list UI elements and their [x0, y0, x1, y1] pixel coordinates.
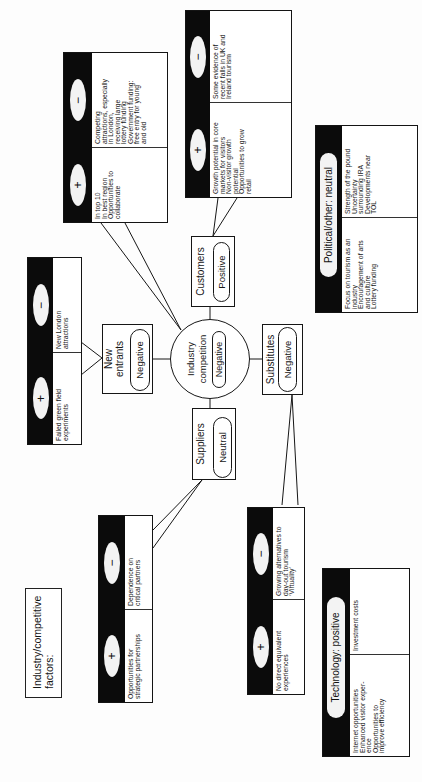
rating-pill: Neutral: [213, 417, 232, 478]
node-label: Industry: [185, 320, 196, 398]
con-item: critical partners: [135, 519, 142, 606]
customers-node: Customers Positive: [191, 236, 235, 307]
node-label: competition: [197, 320, 208, 398]
rating-pill: Negative: [212, 331, 226, 388]
node-label: Suppliers: [195, 409, 206, 479]
plus-icon: +: [70, 164, 86, 206]
positive-item: Lottery funding: [371, 221, 378, 309]
technology-header: Technology: positive: [323, 569, 350, 756]
political-other-box: Political/other: neutral Focus on touris…: [315, 125, 418, 313]
positive-item: improve efficiency: [379, 658, 386, 753]
con-item: ‘Virtuality’: [289, 511, 296, 596]
cons-list: Some evidence of recent falls in UK and …: [210, 11, 291, 103]
minus-icon: −: [190, 36, 206, 78]
minus-icon: −: [104, 542, 120, 584]
negatives-list: Strength of the pound Uncertainty surrou…: [342, 126, 417, 218]
cons-list: Growing alternatives to day-out tourism …: [273, 508, 304, 600]
new-entrants-node: New entrants Negative: [102, 324, 153, 394]
rating-pill: Negative: [130, 329, 150, 391]
con-item: and old: [141, 56, 148, 144]
minus-icon: −: [33, 285, 49, 327]
substitutes-node: Substitutes Negative: [262, 324, 303, 395]
suppliers-pros-cons: + − Opportunities for strategic partners…: [98, 515, 153, 703]
technology-box: Technology: positive Internet opportunit…: [322, 568, 410, 757]
node-label: New: [103, 325, 114, 393]
pros-cons-header: + −: [186, 11, 210, 197]
node-label: entrants: [114, 325, 125, 393]
pros-cons-header: + −: [248, 508, 273, 694]
cons-list: Dependence on critical partners: [125, 516, 152, 610]
node-label: Substitutes: [265, 325, 276, 394]
connector-customers-detail: [213, 198, 237, 236]
pro-item: collaborate: [115, 151, 122, 219]
minus-icon: −: [70, 80, 86, 122]
pros-cons-header: + −: [28, 258, 53, 444]
industry-competition-node: Industry competition Negative: [170, 319, 250, 399]
suppliers-node: Suppliers Neutral: [192, 408, 236, 480]
pros-list: Opportunities for strategic partnerships: [125, 610, 152, 702]
pro-item: retail: [246, 106, 253, 194]
technology-rating-pill: Technology: positive: [327, 597, 345, 718]
diagram-title: Industry/competitive factors:: [25, 588, 62, 698]
pros-list: No direct equivalent experiences: [273, 600, 304, 694]
political-header: Political/other: neutral: [316, 126, 342, 312]
pro-item: experiences: [283, 603, 290, 691]
connector-new-entrants-detail: [81, 342, 102, 375]
pro-item: experiments: [63, 356, 70, 441]
con-item: attractions: [63, 261, 70, 349]
title-line: factors:: [43, 589, 55, 689]
plus-icon: +: [104, 635, 120, 677]
rating-pill: Negative: [278, 327, 297, 392]
title-line: Industry/competitive: [31, 589, 43, 689]
pros-list: Growth potential in core markets for vis…: [210, 103, 291, 197]
plus-icon: +: [190, 129, 206, 171]
pros-cons-header: + −: [99, 516, 125, 702]
pros-list: Failed green field experiments: [53, 353, 81, 444]
negative-item: Investment costs: [353, 572, 360, 651]
political-rating-pill: Political/other: neutral: [320, 153, 337, 277]
negatives-list: Investment costs: [350, 569, 409, 655]
substitutes-pros-cons: + − No direct equivalent experiences Gro…: [247, 507, 305, 695]
positives-list: Internet opportunities Enhanced visitor …: [350, 655, 409, 756]
plus-icon: +: [253, 626, 269, 668]
cons-list: Competing attractions, especially in Lon…: [92, 53, 167, 148]
connector-suppliers-detail: [153, 480, 202, 548]
connector-industry-detail: [101, 223, 181, 330]
rating-pill: Positive: [213, 242, 230, 302]
industry-competition-pros-cons: + − In top 10 In best region Opportuniti…: [63, 52, 168, 223]
con-item: Ireland tourism: [226, 14, 233, 99]
cons-list: New London attractions: [53, 258, 81, 353]
pro-item: strategic partnerships: [135, 613, 142, 699]
positives-list: Focus on tourism as an industry Encourag…: [342, 218, 417, 312]
plus-icon: +: [33, 378, 49, 420]
minus-icon: −: [253, 533, 269, 575]
pros-cons-header: + −: [64, 53, 92, 222]
pros-list: In top 10 In best region Opportunities t…: [92, 148, 167, 222]
five-forces-diagram: Industry/competitive factors: + − Opport…: [0, 0, 422, 782]
negative-item: TOL: [371, 129, 378, 214]
node-label: Customers: [195, 237, 206, 306]
connector-substitutes-detail: [282, 395, 298, 505]
new-entrants-pros-cons: + − Failed green field experiments New L…: [27, 257, 82, 445]
customers-pros-cons: + − Growth potential in core markets for…: [185, 10, 292, 198]
